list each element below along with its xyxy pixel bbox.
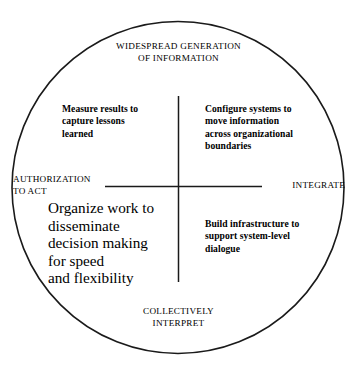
pole-label-left: AUTHORIZATION TO ACT bbox=[13, 174, 91, 197]
pole-label-right: INTEGRATE bbox=[292, 180, 345, 192]
quadrant-text-top-right: Configure systems to move information ac… bbox=[205, 103, 335, 153]
quadrant-text-bottom-left: Organize work to disseminate decision ma… bbox=[48, 199, 183, 287]
pole-label-bottom: COLLECTIVELY INTERPRET bbox=[0, 306, 357, 329]
quadrant-diagram: WIDESPREAD GENERATION OF INFORMATION COL… bbox=[0, 0, 357, 372]
pole-label-top: WIDESPREAD GENERATION OF INFORMATION bbox=[0, 41, 357, 64]
quadrant-text-bottom-right: Build infrastructure to support system-l… bbox=[205, 218, 337, 255]
quadrant-text-top-left: Measure results to capture lessons learn… bbox=[62, 103, 174, 140]
